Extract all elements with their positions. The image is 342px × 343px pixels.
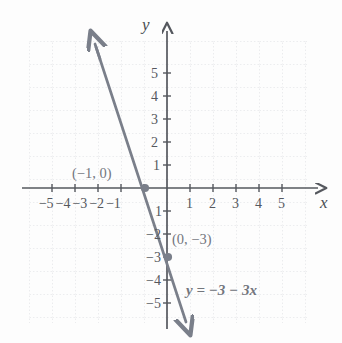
x-tick-label-2: 2 [209,197,216,211]
point-label-y-intercept: (0, −3) [172,232,212,247]
point-marker-x-intercept [141,184,149,192]
y-tick-label-neg1: 1 [155,205,162,219]
graph-figure: y x −5 −4 −3 −2 −1 1 2 3 4 5 5 4 3 2 1 1… [0,0,342,343]
equation-label: y = −3 − 3x [186,283,257,298]
y-tick-label-2: 2 [151,136,158,150]
x-tick-label-3: 3 [232,197,239,211]
y-tick-label-neg4: −4 [146,274,161,288]
x-tick-label-4: 4 [255,197,262,211]
point-label-x-intercept: (−1, 0) [72,166,112,181]
graph-svg [0,0,342,343]
grid-area [29,41,308,323]
point-marker-y-intercept [164,253,172,261]
y-tick-label-5: 5 [151,67,158,81]
x-tick-labels-negative: −5 −4 −3 −2 −1 [39,197,121,211]
y-tick-label-4: 4 [151,90,158,104]
x-tick-label-5: 5 [278,197,285,211]
y-tick-label-neg3: −3 [146,251,161,265]
y-tick-label-neg5: −5 [146,297,161,311]
y-axis-label: y [142,16,150,33]
x-axis-label: x [320,194,328,211]
y-tick-label-1: 1 [153,159,160,173]
x-tick-label-1: 1 [186,197,193,211]
y-tick-label-3: 3 [151,113,158,127]
y-tick-label-neg2: −2 [146,228,161,242]
